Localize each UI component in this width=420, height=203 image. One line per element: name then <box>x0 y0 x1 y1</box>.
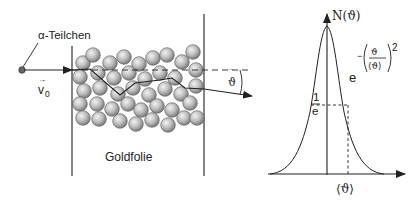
level-numerator: 1 <box>313 91 319 103</box>
formula-power: 2 <box>392 42 398 53</box>
x-axis-marker: ⟨ϑ⟩ <box>336 182 354 196</box>
deflection-angle-arc <box>240 70 242 95</box>
scattering-panel: α-Teilchen → v 0 <box>19 14 252 176</box>
formula-paren-left <box>364 44 367 72</box>
y-axis-label: N(ϑ) <box>332 9 360 23</box>
level-denominator: e <box>312 105 318 117</box>
deflected-beam-arrow <box>204 89 252 96</box>
velocity-label: v <box>38 83 44 97</box>
formula-base: e <box>349 70 356 85</box>
deflection-angle-label: ϑ <box>228 76 236 89</box>
foil-label: Goldfolie <box>105 150 153 164</box>
gold-atoms <box>73 45 205 133</box>
formula-paren-right <box>388 44 391 72</box>
formula-numerator: ϑ <box>371 47 378 57</box>
particle-label: α-Teilchen <box>38 29 91 41</box>
velocity-subscript: 0 <box>45 89 50 99</box>
particle-label-leader <box>23 43 38 67</box>
formula-denominator: ⟨ϑ⟩ <box>368 61 381 71</box>
distribution-panel: N(ϑ) 1 e e − ϑ ⟨ϑ⟩ 2 ⟨ϑ⟩ <box>268 9 405 196</box>
rutherford-scattering-diagram: α-Teilchen → v 0 <box>0 0 420 203</box>
formula-minus: − <box>357 51 362 61</box>
